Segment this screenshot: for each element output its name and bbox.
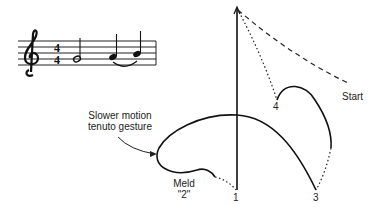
arrowhead-icon bbox=[150, 151, 157, 157]
rebound-to-4-path bbox=[239, 12, 277, 100]
annotation-line2: tenuto gesture bbox=[85, 121, 155, 132]
meld-label: Meld "2" bbox=[170, 178, 198, 200]
beat-3-label: 3 bbox=[313, 192, 319, 203]
annotation-label: Slower motion tenuto gesture bbox=[85, 110, 155, 132]
meld-number: "2" bbox=[170, 189, 198, 200]
treble-clef-icon bbox=[25, 30, 38, 75]
quarter-note-icon bbox=[108, 34, 118, 61]
meld-text: Meld bbox=[170, 178, 198, 189]
beat-1-label: 1 bbox=[233, 192, 239, 203]
annotation-arrow bbox=[118, 137, 155, 154]
meld-dotted bbox=[215, 177, 236, 190]
start-label: Start bbox=[342, 91, 363, 102]
time-sig-bottom: 4 bbox=[54, 53, 60, 67]
beat-4-arc bbox=[277, 86, 331, 148]
annotation-line1: Slower motion bbox=[85, 110, 155, 121]
beat-4-label: 4 bbox=[273, 101, 279, 112]
quarter-note-icon bbox=[132, 31, 142, 58]
start-path bbox=[238, 10, 348, 83]
to-3-dotted bbox=[316, 148, 331, 190]
